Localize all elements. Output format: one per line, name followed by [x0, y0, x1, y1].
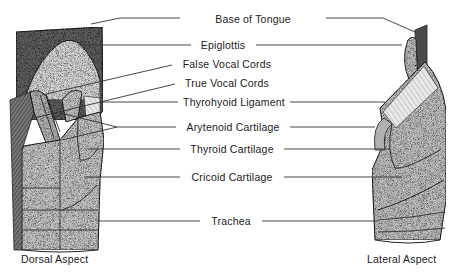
label-trachea: Trachea	[211, 215, 251, 227]
lateral-aspect-figure	[372, 25, 446, 243]
label-base-of-tongue: Base of Tongue	[215, 13, 291, 25]
caption-lateral-aspect: Lateral Aspect	[367, 253, 436, 265]
dorsal-aspect-figure	[10, 27, 104, 252]
label-thyrohyoid-ligament: Thyrohyoid Ligament	[183, 96, 285, 108]
larynx-diagram: Base of Tongue Epiglottis False Vocal Co…	[0, 0, 464, 277]
label-cricoid-cartilage: Cricoid Cartilage	[191, 171, 272, 183]
label-epiglottis: Epiglottis	[201, 39, 246, 51]
label-false-vocal-cords: False Vocal Cords	[183, 58, 272, 70]
label-arytenoid-cartilage: Arytenoid Cartilage	[186, 121, 279, 133]
label-true-vocal-cords: True Vocal Cords	[185, 77, 269, 89]
caption-dorsal-aspect: Dorsal Aspect	[21, 253, 88, 265]
label-thyroid-cartilage: Thyroid Cartilage	[190, 143, 273, 155]
